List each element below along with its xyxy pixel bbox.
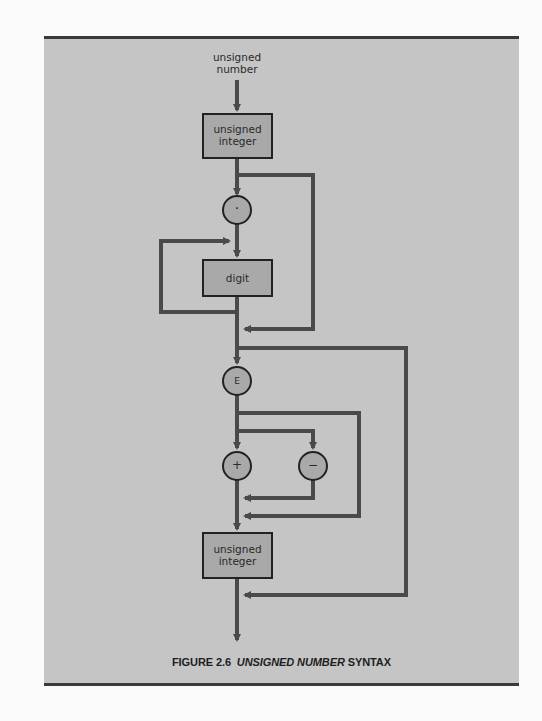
figure-caption: FIGURE 2.6 UNSIGNED NUMBER SYNTAX (172, 656, 394, 668)
plus-symbol: + (223, 459, 251, 471)
box1-label: unsigned integer (203, 123, 272, 147)
minus-return-path (245, 480, 313, 498)
digit-label: digit (203, 272, 272, 284)
minus-symbol: − (299, 459, 327, 471)
box2-label: unsigned integer (203, 543, 272, 567)
figure-page: unsigned number unsigned integer · digit… (0, 0, 542, 721)
skip-fraction-path (237, 175, 313, 329)
syntax-diagram (0, 0, 542, 721)
caption-italic: UNSIGNED NUMBER (237, 656, 345, 668)
entry-label: unsigned number (197, 51, 277, 75)
box2-label-line2: integer (203, 555, 272, 567)
entry-label-line2: number (197, 63, 277, 75)
box1-label-line2: integer (203, 135, 272, 147)
box2-label-line1: unsigned (203, 543, 272, 555)
decimal-point-symbol: · (223, 202, 251, 214)
caption-suffix: SYNTAX (348, 656, 391, 668)
box1-label-line1: unsigned (203, 123, 272, 135)
exponent-symbol: E (223, 375, 251, 387)
entry-label-line1: unsigned (197, 51, 277, 63)
caption-prefix: FIGURE 2.6 (172, 656, 231, 668)
skip-sign-path (237, 413, 359, 516)
to-minus-path (237, 431, 313, 448)
